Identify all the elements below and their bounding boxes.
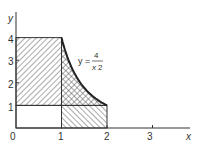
y-tick-label-2: 2 xyxy=(8,79,14,90)
y-tick-label-1: 1 xyxy=(8,102,14,113)
region-bottom-rectangle xyxy=(62,105,108,128)
region-unit-square xyxy=(16,105,62,128)
region-left-rectangle xyxy=(16,38,62,106)
curve-label-denominator: x xyxy=(91,63,97,72)
x-tick-label-3: 3 xyxy=(147,131,153,142)
curve-label-lhs: y = xyxy=(78,56,90,66)
y-axis-label: y xyxy=(7,13,14,24)
x-axis-label: x xyxy=(185,131,192,142)
y-tick-label-4: 4 xyxy=(8,34,14,45)
curve-label-exponent: 2 xyxy=(98,63,103,72)
diagram: y x 0 1 2 3 1 2 3 4 y = 4 x 2 xyxy=(0,0,201,146)
curve-label: y = 4 x 2 xyxy=(78,51,103,72)
x-tick-label-2: 2 xyxy=(104,131,110,142)
x-tick-label-1: 1 xyxy=(58,131,64,142)
y-tick-label-3: 3 xyxy=(8,56,14,67)
origin-label: 0 xyxy=(10,131,16,142)
curve-label-numerator: 4 xyxy=(94,51,99,60)
